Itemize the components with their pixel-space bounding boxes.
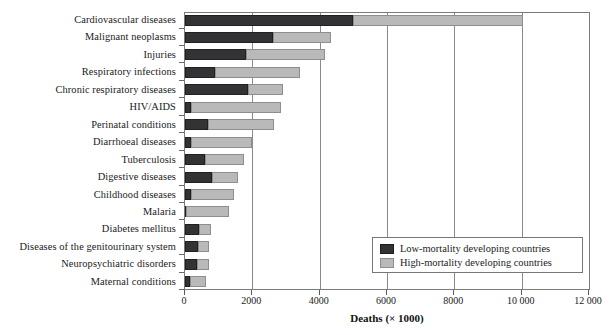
x-axis-ticks: 0200040006000800010 00012 000 bbox=[184, 290, 590, 296]
x-tick-label: 12 000 bbox=[574, 295, 602, 307]
bar-row bbox=[185, 172, 589, 183]
bar-segment-low-mortality bbox=[185, 119, 208, 130]
bar-segment-high-mortality bbox=[246, 49, 325, 60]
bar-segment-low-mortality bbox=[185, 49, 246, 60]
bar-segment-high-mortality bbox=[197, 259, 209, 270]
bar-row bbox=[185, 32, 589, 43]
category-tick bbox=[179, 272, 184, 273]
bar-row bbox=[185, 137, 589, 148]
bar-row bbox=[185, 154, 589, 165]
bar-segment-high-mortality bbox=[199, 224, 211, 235]
category-tick bbox=[179, 80, 184, 81]
bar-chart: Cardiovascular diseasesMalignant neoplas… bbox=[0, 0, 615, 335]
x-tick-label: 6000 bbox=[376, 295, 396, 307]
category-label: Diseases of the genitourinary system bbox=[0, 241, 176, 252]
bar-row bbox=[185, 102, 589, 113]
bar-segment-low-mortality bbox=[185, 15, 353, 26]
bar-segment-high-mortality bbox=[208, 119, 274, 130]
category-label: Maternal conditions bbox=[0, 276, 176, 287]
category-label: Respiratory infections bbox=[0, 66, 176, 77]
bar-segment-high-mortality bbox=[248, 84, 283, 95]
bar-segment-high-mortality bbox=[215, 67, 301, 78]
bar-segment-low-mortality bbox=[185, 241, 198, 252]
legend-swatch-low-mortality bbox=[380, 244, 394, 254]
category-label: Neuropsychiatric disorders bbox=[0, 258, 176, 269]
category-tick bbox=[179, 62, 184, 63]
chart-legend: Low-mortality developing countries High-… bbox=[372, 237, 583, 273]
bar-row bbox=[185, 15, 589, 26]
category-label: Childhood diseases bbox=[0, 189, 176, 200]
bar-row bbox=[185, 49, 589, 60]
bar-segment-high-mortality bbox=[191, 189, 233, 200]
bar-segment-high-mortality bbox=[198, 241, 209, 252]
category-tick bbox=[179, 97, 184, 98]
category-tick bbox=[179, 254, 184, 255]
bar-row bbox=[185, 189, 589, 200]
bar-segment-low-mortality bbox=[185, 172, 212, 183]
bar-row bbox=[185, 84, 589, 95]
bar-row bbox=[185, 224, 589, 235]
bar-row bbox=[185, 119, 589, 130]
category-label: Chronic respiratory diseases bbox=[0, 84, 176, 95]
bar-segment-high-mortality bbox=[186, 206, 229, 217]
category-tick bbox=[179, 202, 184, 203]
category-tick bbox=[179, 219, 184, 220]
category-label: Digestive diseases bbox=[0, 171, 176, 182]
legend-swatch-high-mortality bbox=[380, 258, 394, 268]
bar-segment-high-mortality bbox=[191, 102, 281, 113]
category-label: Malignant neoplasms bbox=[0, 31, 176, 42]
bar-row bbox=[185, 206, 589, 217]
category-label: Malaria bbox=[0, 206, 176, 217]
category-tick bbox=[179, 185, 184, 186]
bar-row bbox=[185, 67, 589, 78]
category-label: Tuberculosis bbox=[0, 154, 176, 165]
category-label: Perinatal conditions bbox=[0, 119, 176, 130]
category-tick bbox=[179, 167, 184, 168]
bar-segment-low-mortality bbox=[185, 224, 199, 235]
legend-label-low-mortality: Low-mortality developing countries bbox=[400, 243, 550, 254]
bar-row bbox=[185, 276, 589, 287]
category-label: Diabetes mellitus bbox=[0, 223, 176, 234]
legend-item-low-mortality: Low-mortality developing countries bbox=[380, 242, 576, 255]
x-tick-label: 10 000 bbox=[507, 295, 535, 307]
bar-segment-high-mortality bbox=[191, 137, 252, 148]
x-tick-label: 8000 bbox=[443, 295, 463, 307]
bar-segment-low-mortality bbox=[185, 32, 273, 43]
x-tick-label: 2000 bbox=[241, 295, 261, 307]
bar-segment-high-mortality bbox=[205, 154, 244, 165]
bar-segment-high-mortality bbox=[273, 32, 332, 43]
bar-segment-high-mortality bbox=[353, 15, 523, 26]
category-label: Cardiovascular diseases bbox=[0, 14, 176, 25]
category-label: HIV/AIDS bbox=[0, 101, 176, 112]
bar-segment-low-mortality bbox=[185, 84, 248, 95]
bar-segment-low-mortality bbox=[185, 154, 205, 165]
category-tick bbox=[179, 150, 184, 151]
x-axis-title: Deaths (× 1000) bbox=[184, 312, 590, 324]
legend-label-high-mortality: High-mortality developing countries bbox=[400, 257, 552, 268]
category-tick bbox=[179, 45, 184, 46]
category-tick bbox=[179, 28, 184, 29]
category-tick bbox=[179, 132, 184, 133]
category-label: Injuries bbox=[0, 49, 176, 60]
bar-segment-low-mortality bbox=[185, 259, 197, 270]
category-label: Diarrhoeal diseases bbox=[0, 136, 176, 147]
bar-segment-high-mortality bbox=[190, 276, 206, 287]
bar-segment-high-mortality bbox=[212, 172, 238, 183]
category-tick bbox=[179, 237, 184, 238]
category-tick bbox=[179, 115, 184, 116]
x-tick-label: 0 bbox=[182, 295, 187, 307]
x-tick-label: 4000 bbox=[309, 295, 329, 307]
legend-item-high-mortality: High-mortality developing countries bbox=[380, 256, 576, 269]
bar-segment-low-mortality bbox=[185, 67, 215, 78]
category-axis-labels: Cardiovascular diseasesMalignant neoplas… bbox=[0, 12, 180, 290]
